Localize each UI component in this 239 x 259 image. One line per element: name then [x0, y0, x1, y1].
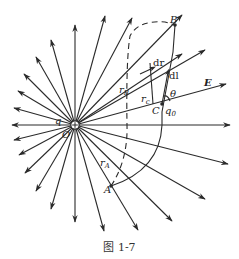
point-C — [160, 102, 164, 106]
e-field-label: E — [203, 77, 212, 88]
dl-label: dl — [169, 70, 179, 81]
electric-field-diagram: q O A B C rA rB rc dr dl θ E q0 — [0, 0, 239, 259]
dl-vector — [162, 72, 168, 104]
figure-caption: 图 1-7 — [0, 238, 239, 254]
field-lines — [12, 15, 230, 231]
point-charge — [71, 121, 79, 129]
q0-label: q0 — [165, 105, 176, 118]
dr-label: dr — [153, 57, 164, 68]
point-b-label: B — [169, 14, 177, 25]
r-c-label: rc — [141, 93, 150, 106]
r-a-label: rA — [100, 157, 110, 170]
origin-label: O — [62, 129, 70, 140]
point-a-label: A — [103, 184, 111, 195]
point-c-label: C — [152, 105, 160, 116]
charge-label: q — [55, 115, 61, 126]
theta-label: θ — [170, 88, 176, 99]
